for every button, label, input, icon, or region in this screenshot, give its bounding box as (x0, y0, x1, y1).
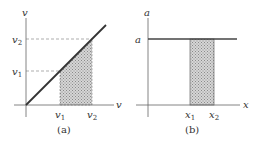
y-tick-v2-a: v2 (12, 34, 22, 47)
y-tick-a-b: a (135, 34, 141, 45)
shaded-area-a (60, 39, 92, 105)
x-tick-v1-a: v1 (55, 109, 65, 122)
y-tick-v1-a: v1 (12, 66, 22, 79)
x-axis-label-a: v (116, 99, 122, 110)
x-tick-x1-b: x1 (185, 109, 195, 122)
x-tick-x2-b: x2 (209, 109, 219, 122)
x-axis-label-b: x (243, 99, 249, 110)
y-axis-label-a: v (22, 7, 28, 18)
diagram-root: v v v2 v1 v1 v2 (a) a a x x1 x2 (b) (0, 0, 260, 141)
y-axis-label-b: a (144, 7, 150, 18)
caption-b: (b) (185, 124, 199, 135)
diagram-canvas: v v v2 v1 v1 v2 (a) a a x x1 x2 (b) (0, 0, 260, 141)
caption-a: (a) (57, 124, 71, 135)
panel-b: a a x x1 x2 (b) (135, 7, 249, 135)
x-tick-v2-a: v2 (87, 109, 97, 122)
panel-a: v v v2 v1 v1 v2 (a) (12, 7, 122, 135)
shaded-area-b (190, 39, 214, 105)
